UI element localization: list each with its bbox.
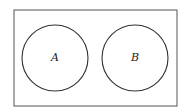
venn-diagram: A B	[0, 0, 187, 112]
universal-set-rectangle	[14, 10, 177, 106]
set-a-label: A	[50, 51, 59, 64]
set-b-label: B	[130, 51, 139, 64]
